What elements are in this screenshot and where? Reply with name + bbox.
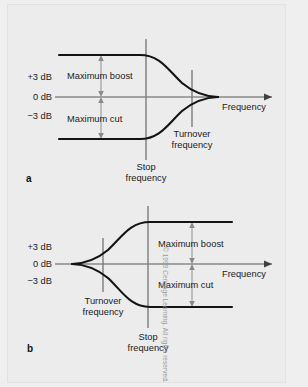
panel-b-zerodb-label: 0 dB (33, 259, 52, 269)
panel-a-plus3db-label: +3 dB (27, 72, 52, 82)
panel-a-turnover-frequency-label-line1: Turnover (174, 129, 211, 139)
panel-b-plus3db-label: +3 dB (27, 242, 52, 252)
panel-a-max-cut-label: Maximum cut (67, 114, 123, 124)
panel-a-stop-frequency-label-line1: Stop (136, 162, 155, 172)
panel-a-minus3db-label: −3 dB (27, 111, 52, 121)
panel-b-group: +3 dB 0 dB −3 dB Maximum boost Maximum c… (27, 206, 272, 354)
panel-b-frequency-axis-label: Frequency (222, 269, 266, 279)
panel-a-group: +3 dB 0 dB −3 dB Maximum boost Maximum c… (26, 39, 272, 184)
panel-b-minus3db-label: −3 dB (27, 276, 52, 286)
panel-a-letter-label: a (26, 173, 32, 184)
copyright-notice: © 1999 Cengage Learning. All rights rese… (162, 247, 169, 387)
panel-a-frequency-axis-label: Frequency (222, 102, 266, 112)
response-curves-diagram: +3 dB 0 dB −3 dB Maximum boost Maximum c… (0, 0, 308, 387)
figure-container: +3 dB 0 dB −3 dB Maximum boost Maximum c… (0, 0, 308, 387)
panel-b-letter-label: b (27, 343, 33, 354)
panel-a-stop-frequency-label-line2: frequency (126, 173, 167, 183)
panel-a-turnover-frequency-label-line2: frequency (172, 140, 213, 150)
panel-a-zerodb-label: 0 dB (33, 92, 52, 102)
panel-a-frequency-axis (55, 94, 272, 101)
panel-b-turnover-frequency-label-line1: Turnover (85, 296, 122, 306)
panel-b-turnover-frequency-label-line2: frequency (83, 307, 124, 317)
panel-a-max-boost-label: Maximum boost (67, 71, 133, 81)
panel-b-stop-frequency-label-line1: Stop (138, 332, 157, 342)
